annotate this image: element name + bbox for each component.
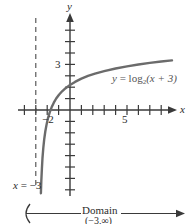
asymptote-label: x = −3: [13, 180, 41, 191]
y-axis-arrowhead: [66, 13, 74, 22]
log-function-graph-figure: y x 3 −2 5 y = log2(x + 3) x = −3 Domain…: [0, 0, 191, 224]
equation-annotation: y = log2(x + 3): [112, 73, 177, 86]
domain-arrowhead: [176, 210, 185, 218]
asymptote-label-x: x: [13, 179, 18, 191]
x-axis-arrowhead: [168, 106, 177, 114]
asymptote-label-equals: =: [21, 179, 27, 191]
x-tick-label-minus-2: −2: [42, 114, 54, 125]
y-axis-label: y: [67, 1, 72, 12]
equation-arg: (x + 3): [146, 72, 177, 84]
equation-lhs: y: [112, 72, 117, 84]
x-tick-label-5: 5: [122, 114, 128, 125]
y-tick-label-3: 3: [55, 59, 61, 70]
equation-equals: =: [120, 72, 126, 84]
asymptote-label-value: −3: [30, 179, 42, 191]
x-axis-label: x: [180, 104, 185, 115]
domain-interval: (−3,∞): [85, 216, 112, 224]
equation-func: log: [129, 72, 143, 84]
